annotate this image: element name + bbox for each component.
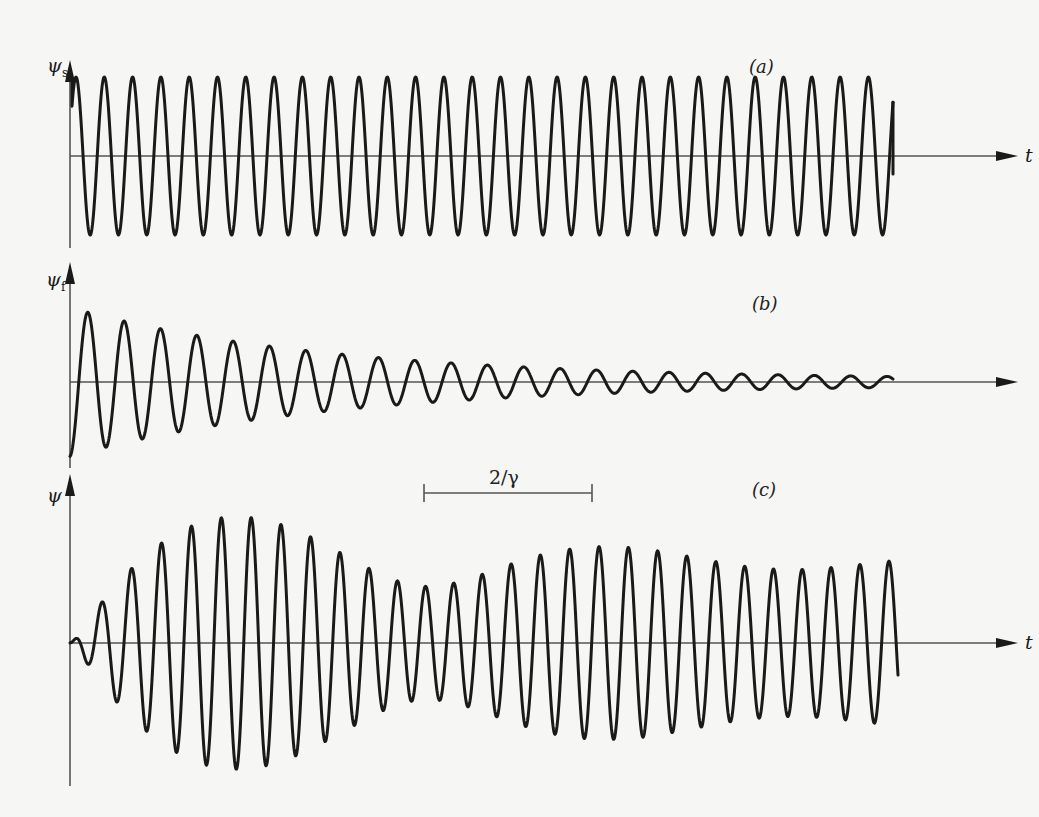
y-label-subscript: s — [62, 66, 68, 80]
panel-c-x-label: t — [1025, 633, 1033, 652]
panel-a-y-label: ψs — [47, 56, 68, 79]
panel-b-label: (b) — [752, 293, 778, 314]
y-axis-arrow-icon — [65, 474, 75, 496]
y-label-subscript: f — [61, 280, 65, 294]
panel-c-plot — [65, 474, 1018, 786]
y-label-symbol: ψ — [47, 54, 62, 76]
figure-canvas — [0, 0, 1039, 817]
x-axis-arrow-icon — [996, 151, 1018, 161]
panel-a-plot — [65, 60, 1018, 248]
y-label-symbol: ψ — [46, 268, 61, 290]
panel-a-x-label: t — [1025, 146, 1033, 165]
psi-f-curve — [70, 312, 893, 456]
x-axis-arrow-icon — [996, 377, 1018, 387]
panel-b-y-label: ψf — [46, 270, 65, 293]
y-axis-arrow-icon — [65, 262, 75, 284]
panel-c-label: (c) — [752, 479, 776, 500]
panel-c-y-label: ψ — [47, 486, 62, 509]
y-label-symbol: ψ — [47, 484, 62, 506]
panel-b-plot — [65, 262, 1018, 468]
scale-bar-label: 2/γ — [489, 466, 519, 488]
panel-a-label: (a) — [749, 56, 774, 77]
x-axis-arrow-icon — [996, 638, 1018, 648]
